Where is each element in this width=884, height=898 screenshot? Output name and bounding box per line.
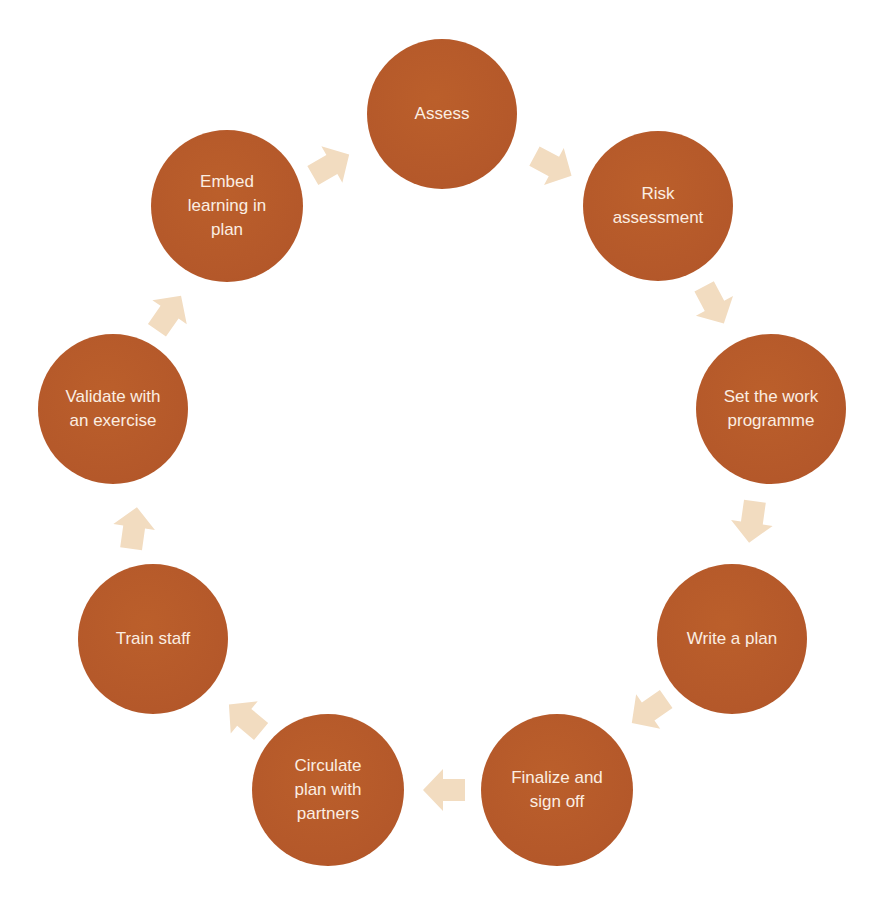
arrow-train-to-validate-icon bbox=[108, 502, 160, 554]
node-write-plan: Write a plan bbox=[657, 564, 807, 714]
arrow-finalize-to-circulate-icon bbox=[421, 767, 467, 813]
node-assess: Assess bbox=[367, 39, 517, 189]
node-label: Set the work programme bbox=[724, 385, 819, 433]
node-train-staff: Train staff bbox=[78, 564, 228, 714]
node-risk-assessment: Risk assessment bbox=[583, 131, 733, 281]
node-label: Risk assessment bbox=[613, 182, 704, 230]
node-circulate-plan: Circulate plan with partners bbox=[252, 714, 404, 866]
node-label: Assess bbox=[415, 102, 470, 126]
node-label: Validate with an exercise bbox=[65, 385, 160, 433]
node-set-work-programme: Set the work programme bbox=[696, 334, 846, 484]
arrow-risk-to-set-icon bbox=[683, 274, 745, 336]
arrow-write-to-finalize-icon bbox=[617, 679, 681, 743]
arrow-assess-to-risk-icon bbox=[522, 135, 584, 197]
node-label: Finalize and sign off bbox=[511, 766, 603, 814]
arrow-embed-to-assess-icon bbox=[300, 134, 363, 197]
node-label: Write a plan bbox=[687, 627, 777, 651]
node-label: Embed learning in plan bbox=[188, 170, 266, 242]
node-label: Circulate plan with partners bbox=[294, 754, 361, 826]
arrow-validate-to-embed-icon bbox=[137, 281, 201, 345]
node-label: Train staff bbox=[116, 627, 191, 651]
arrow-set-to-write-icon bbox=[726, 496, 778, 548]
arrow-circulate-to-train-icon bbox=[213, 686, 278, 751]
node-validate-exercise: Validate with an exercise bbox=[38, 334, 188, 484]
cycle-diagram: Assess Risk assessment Set the work prog… bbox=[0, 0, 884, 898]
node-embed-learning: Embed learning in plan bbox=[151, 130, 303, 282]
node-finalize-sign-off: Finalize and sign off bbox=[481, 714, 633, 866]
